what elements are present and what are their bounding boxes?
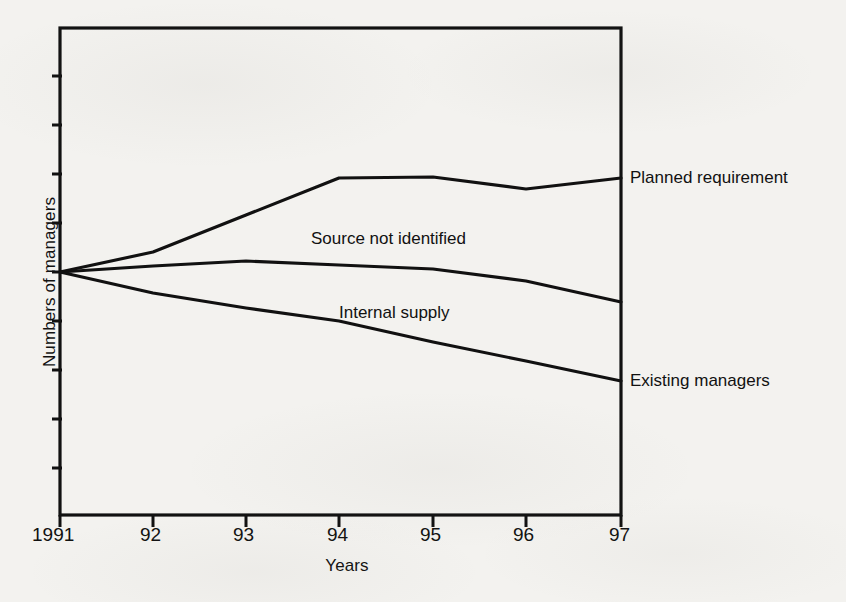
x-tick-label-93: 93 [233, 524, 254, 546]
series-label-source-not-identified: Source not identified [311, 229, 466, 249]
x-tick-label-95: 95 [420, 524, 441, 546]
x-tick-label-1991: 1991 [32, 524, 74, 546]
series-line-existing-managers [60, 272, 621, 381]
series-line-planned-requirement [60, 177, 621, 272]
x-tick-label-92: 92 [140, 524, 161, 546]
x-tick-label-96: 96 [513, 524, 534, 546]
x-axis-title: Years [287, 556, 407, 576]
series-label-planned-requirement: Planned requirement [630, 168, 788, 188]
x-tick-label-97: 97 [609, 524, 630, 546]
series-line-source-not-identified [60, 261, 621, 302]
chart-page: Numbers of managers Years 1991 92 93 94 … [0, 0, 846, 602]
series-label-existing-managers: Existing managers [630, 371, 770, 391]
y-axis-title: Numbers of managers [40, 172, 60, 392]
series-label-internal-supply: Internal supply [339, 303, 450, 323]
x-tick-label-94: 94 [327, 524, 348, 546]
line-chart-canvas [0, 0, 846, 602]
plot-frame-rect [60, 28, 621, 515]
plot-frame [60, 28, 621, 515]
